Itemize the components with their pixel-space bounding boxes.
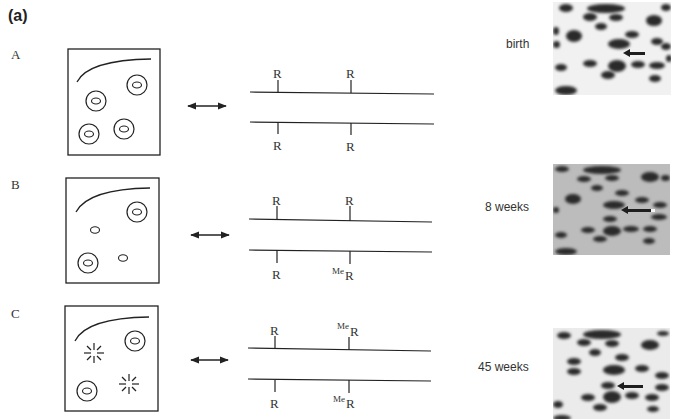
site-label: R (270, 323, 279, 338)
gel-image-45-weeks (553, 328, 670, 419)
cell-normal-icon (114, 119, 134, 139)
arrow-marker-icon (629, 52, 645, 55)
methyl-label: Me (333, 394, 345, 404)
cell-normal-icon (78, 253, 98, 273)
cell-box-b (66, 178, 159, 283)
site-label: R (345, 268, 354, 283)
dna-strands-c: R Me R R Me R (248, 321, 431, 411)
methyl-label: Me (337, 321, 349, 331)
site-label: R (346, 139, 355, 154)
site-label: R (270, 396, 279, 411)
site-label: R (346, 66, 355, 81)
site-label: R (346, 396, 355, 411)
dna-strands-a: R R R R (250, 66, 434, 154)
tissue-curve-icon (77, 59, 151, 82)
tissue-curve-icon (76, 188, 150, 212)
cell-normal-icon (79, 124, 99, 144)
gel-image-birth (553, 2, 671, 95)
age-label-birth: birth (506, 37, 529, 51)
cell-normal-icon (127, 75, 147, 95)
site-label: R (273, 138, 282, 153)
cell-normal-icon (127, 202, 147, 222)
cell-normal-icon (86, 91, 106, 111)
dna-strands-b: R R R Me R (249, 193, 432, 283)
cell-normal-icon (125, 331, 145, 351)
cell-shrunk-icon (119, 255, 128, 261)
methyl-label: Me (332, 266, 344, 276)
cell-shrunk-icon (91, 227, 100, 233)
site-label: R (273, 66, 282, 81)
age-label-8-weeks: 8 weeks (485, 200, 529, 214)
arrow-marker-icon (623, 385, 643, 388)
site-label: R (345, 193, 354, 208)
gel-image-8-weeks (553, 164, 670, 255)
site-label: R (272, 267, 281, 282)
site-label: R (350, 324, 359, 339)
cell-normal-icon (77, 381, 97, 401)
cell-box-a (68, 49, 160, 155)
age-label-45-weeks: 45 weeks (478, 360, 529, 374)
cell-apoptotic-burst-icon (84, 343, 104, 363)
site-label: R (272, 193, 281, 208)
cell-apoptotic-burst-icon (119, 374, 139, 394)
arrow-marker-icon (627, 209, 651, 212)
cell-box-c (65, 306, 158, 411)
tissue-curve-icon (75, 317, 149, 341)
